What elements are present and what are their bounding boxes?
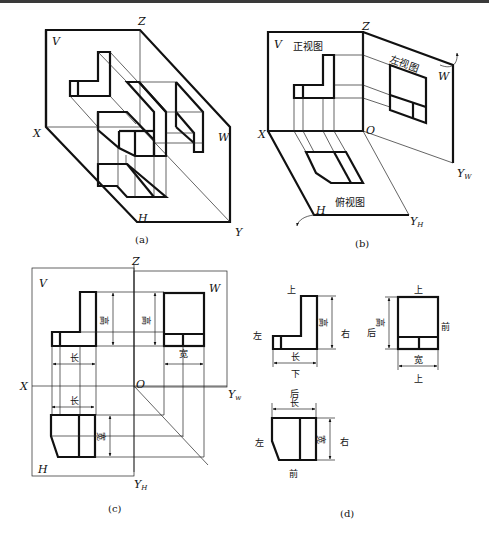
axis-label-x: X bbox=[19, 380, 29, 393]
plane-label-v: V bbox=[52, 35, 61, 48]
top-length-label: 长 bbox=[290, 397, 299, 408]
front-length-label: 长 bbox=[291, 351, 300, 362]
caption-b: (b) bbox=[355, 238, 369, 249]
dim-top-length: 长 bbox=[70, 395, 79, 406]
top-right-label: 右 bbox=[340, 436, 349, 447]
axis-label-yh: YH bbox=[410, 215, 424, 229]
side-width-label: 宽 bbox=[414, 354, 423, 365]
dim-front-height: 高 bbox=[99, 316, 110, 325]
three-view-projection-figure: Z V X W H Y (a) bbox=[0, 0, 489, 534]
caption-a: (a) bbox=[135, 234, 149, 245]
axis-label-x: X bbox=[257, 128, 267, 141]
panel-c-unfolded-three-views: 高 高 长 宽 长 宽 Z V W X O Yw H YH (c) bbox=[19, 255, 241, 514]
front-left-label: 左 bbox=[253, 330, 262, 341]
side-bottom-label: 上 bbox=[414, 374, 423, 384]
front-bottom-label: 下 bbox=[291, 369, 300, 379]
side-top-label: 上 bbox=[414, 285, 423, 295]
caption-d: (d) bbox=[340, 508, 354, 519]
plane-label-h: H bbox=[137, 212, 148, 225]
top-front-label: 前 bbox=[289, 468, 298, 479]
plane-label-w: W bbox=[209, 282, 222, 295]
origin-label-o: O bbox=[366, 124, 375, 137]
axis-label-z: Z bbox=[361, 20, 370, 33]
plane-label-w: W bbox=[438, 70, 451, 83]
front-height-label: 高 bbox=[318, 318, 329, 327]
front-right-label: 右 bbox=[341, 328, 350, 339]
caption-c: (c) bbox=[108, 503, 122, 514]
panel-b-unfolding-planes: Z V X O W H YW YH 正视图 左视图 俯视图 (b) bbox=[257, 20, 472, 249]
axis-label-z: Z bbox=[131, 255, 140, 268]
axis-label-yw: YW bbox=[457, 167, 472, 181]
top-view-orientation: 后 长 左 右 宽 前 bbox=[255, 389, 349, 479]
axis-label-z: Z bbox=[137, 15, 146, 28]
side-view-orientation: 上 上 后 前 高 宽 bbox=[367, 285, 450, 384]
top-left-label: 左 bbox=[255, 437, 264, 448]
plane-label-h: H bbox=[315, 204, 326, 217]
origin-label-o: O bbox=[136, 378, 145, 391]
side-height-label: 高 bbox=[375, 318, 386, 327]
panel-a-isometric-projection: Z V X W H Y (a) bbox=[32, 15, 244, 245]
axis-label-x: X bbox=[32, 127, 42, 140]
panel-d-view-orientations: 上 下 左 右 高 长 上 上 后 前 高 宽 bbox=[253, 285, 450, 519]
dim-top-width: 宽 bbox=[96, 432, 107, 441]
axis-label-yh: YH bbox=[134, 478, 148, 492]
plane-label-w: W bbox=[218, 131, 231, 144]
front-view-orientation: 上 下 左 右 高 长 bbox=[253, 285, 350, 379]
dim-side-width: 宽 bbox=[179, 348, 188, 359]
side-right-label: 前 bbox=[441, 321, 450, 332]
top-width-label: 宽 bbox=[316, 435, 327, 444]
plane-label-v: V bbox=[39, 277, 48, 290]
side-left-label: 后 bbox=[367, 328, 376, 338]
dim-front-length: 长 bbox=[70, 352, 79, 363]
plane-label-v: V bbox=[274, 38, 283, 51]
plane-label-h: H bbox=[37, 463, 48, 476]
axis-label-y: Y bbox=[235, 226, 244, 239]
front-top-label: 上 bbox=[287, 285, 296, 295]
top-view-label: 俯视图 bbox=[335, 196, 365, 208]
axis-label-yw: Yw bbox=[228, 388, 241, 402]
front-view-label: 正视图 bbox=[293, 40, 323, 52]
dim-side-height: 高 bbox=[141, 316, 152, 325]
